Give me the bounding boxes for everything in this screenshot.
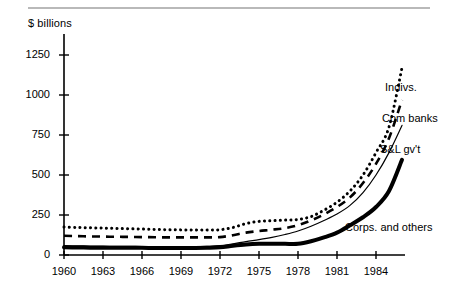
y-tick-label: 1000 xyxy=(16,88,50,100)
x-tick-label: 1981 xyxy=(320,265,354,277)
x-tick-label: 1978 xyxy=(281,265,315,277)
y-tick-label: 750 xyxy=(16,128,50,140)
x-tick-label: 1984 xyxy=(359,265,393,277)
series-line-indivs xyxy=(64,68,402,230)
x-tick-label: 1960 xyxy=(47,265,81,277)
x-tick-label: 1975 xyxy=(242,265,276,277)
series-label: Indivs. xyxy=(385,81,417,93)
chart-figure: $ billions 025050075010001250 1960196319… xyxy=(0,0,458,293)
x-tick-label: 1963 xyxy=(86,265,120,277)
x-tick-label: 1969 xyxy=(164,265,198,277)
series-line-com-banks xyxy=(64,100,402,238)
series-label: S&L gv't xyxy=(380,143,420,155)
x-tick-label: 1972 xyxy=(203,265,237,277)
y-tick-label: 1250 xyxy=(16,48,50,60)
y-tick-label: 250 xyxy=(16,208,50,220)
y-tick-label: 0 xyxy=(16,248,50,260)
x-tick-label: 1966 xyxy=(125,265,159,277)
y-tick-label: 500 xyxy=(16,168,50,180)
series-label: Com banks xyxy=(382,112,438,124)
series-label: Corps. and others xyxy=(345,221,432,233)
